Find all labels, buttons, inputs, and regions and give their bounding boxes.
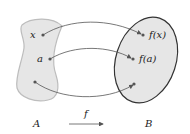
label-a: a [37, 53, 43, 64]
label-fa: f(a) [138, 53, 157, 64]
point-fa [131, 57, 134, 60]
label-function-f: f [83, 108, 90, 119]
label-set-A: A [32, 118, 40, 129]
point-fx [141, 33, 144, 36]
point-third [33, 80, 36, 83]
point-x [41, 33, 44, 36]
function-mapping-diagram: x a f(x) f(a) A B f [0, 0, 190, 134]
point-third-image [132, 82, 135, 85]
point-a [48, 57, 51, 60]
label-set-B: B [144, 118, 152, 129]
label-x: x [30, 29, 36, 40]
label-fx: f(x) [148, 29, 166, 40]
